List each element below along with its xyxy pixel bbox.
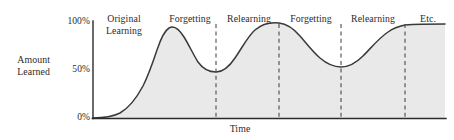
y-tick-label-0: 0% [52, 112, 90, 123]
phase-label-original-learning: OriginalLearning [96, 13, 152, 37]
y-axis-title-line1: Amount [17, 54, 50, 65]
y-tick-label-50: 50% [52, 64, 90, 75]
phase-label-relearning-2: Relearning [343, 13, 403, 25]
area-fill [93, 23, 445, 118]
x-axis-title: Time [200, 124, 280, 135]
phase-label-forgetting-2: Forgetting [282, 13, 340, 25]
phase-label-forgetting-1: Forgetting [160, 13, 220, 25]
phase-label-line2: Learning [106, 25, 142, 36]
phase-label-relearning-1: Relearning [219, 13, 279, 25]
y-axis-title-line2: Learned [17, 66, 50, 77]
phase-label-line1: Original [107, 13, 140, 24]
phase-label-etc: Etc. [408, 13, 448, 25]
y-axis-title: AmountLearned [4, 54, 50, 78]
learning-curve-figure: AmountLearned 100% 50% 0% Time OriginalL… [0, 0, 454, 140]
y-tick-label-100: 100% [52, 16, 90, 27]
